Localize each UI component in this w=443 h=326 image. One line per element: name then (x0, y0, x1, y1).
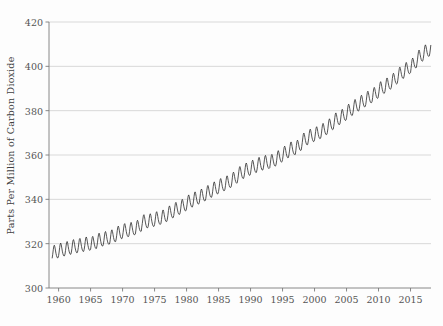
x-tick-label: 2005 (334, 294, 358, 305)
x-tick-label: 1965 (78, 294, 102, 305)
y-tick-label: 360 (10, 150, 43, 161)
x-tick-label: 1985 (206, 294, 230, 305)
y-tick-label: 380 (10, 105, 43, 116)
y-tick-label: 400 (10, 61, 43, 72)
co2-line-chart: Parts Per Million of Carbon Dioxide 3003… (0, 0, 443, 326)
x-tick-label: 1975 (142, 294, 166, 305)
x-tick-label: 2010 (366, 294, 390, 305)
x-tick-label: 1995 (270, 294, 294, 305)
x-tick-label: 1970 (110, 294, 134, 305)
y-tick-label: 300 (10, 283, 43, 294)
gridlines (49, 22, 431, 288)
y-tick-label: 340 (10, 194, 43, 205)
x-tick-label: 2000 (302, 294, 326, 305)
tick-marks (46, 22, 411, 292)
plot-area (0, 0, 443, 326)
x-tick-label: 1990 (238, 294, 262, 305)
co2-series-line (52, 45, 431, 258)
y-tick-label: 420 (10, 17, 43, 28)
x-tick-label: 2015 (398, 294, 422, 305)
x-tick-label: 1960 (47, 294, 71, 305)
x-tick-label: 1980 (174, 294, 198, 305)
y-tick-label: 320 (10, 238, 43, 249)
